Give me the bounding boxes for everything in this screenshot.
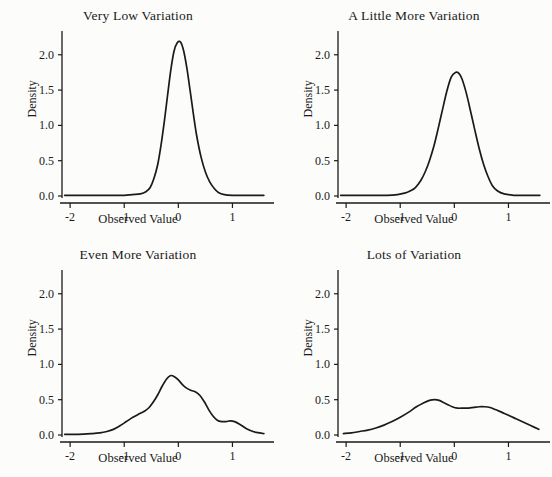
svg-text:1.0: 1.0	[39, 357, 54, 371]
x-axis-label: Observed Value	[276, 451, 552, 466]
svg-text:1.5: 1.5	[315, 83, 330, 97]
panel-very-low-variation: Very Low Variation Density 0.00.51.01.52…	[0, 0, 276, 238]
svg-text:0.5: 0.5	[39, 154, 54, 168]
plot-area-2: 0.00.51.01.52.0-2-101	[0, 239, 276, 477]
svg-text:0.5: 0.5	[315, 393, 330, 407]
svg-text:0.0: 0.0	[39, 189, 54, 203]
panel-lots-of-variation: Lots of Variation Density 0.00.51.01.52.…	[276, 239, 552, 477]
panel-a-little-more-variation: A Little More Variation Density 0.00.51.…	[276, 0, 552, 238]
svg-text:1.5: 1.5	[39, 322, 54, 336]
figure-root: Very Low Variation Density 0.00.51.01.52…	[0, 0, 552, 477]
panel-even-more-variation: Even More Variation Density 0.00.51.01.5…	[0, 239, 276, 477]
x-axis-label: Observed Value	[276, 212, 552, 227]
svg-text:2.0: 2.0	[315, 287, 330, 301]
svg-text:1.5: 1.5	[315, 322, 330, 336]
svg-text:0.0: 0.0	[315, 428, 330, 442]
svg-text:1.0: 1.0	[315, 357, 330, 371]
svg-text:1.0: 1.0	[315, 118, 330, 132]
plot-area-3: 0.00.51.01.52.0-2-101	[276, 239, 552, 477]
svg-text:2.0: 2.0	[315, 48, 330, 62]
plot-area-0: 0.00.51.01.52.0-2-101	[0, 0, 276, 238]
svg-text:2.0: 2.0	[39, 287, 54, 301]
x-axis-label: Observed Value	[0, 212, 276, 227]
svg-text:0.0: 0.0	[39, 428, 54, 442]
svg-text:1.0: 1.0	[39, 118, 54, 132]
svg-text:0.0: 0.0	[315, 189, 330, 203]
svg-text:0.5: 0.5	[39, 393, 54, 407]
svg-text:2.0: 2.0	[39, 48, 54, 62]
x-axis-label: Observed Value	[0, 451, 276, 466]
svg-text:1.5: 1.5	[39, 83, 54, 97]
plot-area-1: 0.00.51.01.52.0-2-101	[276, 0, 552, 238]
svg-text:0.5: 0.5	[315, 154, 330, 168]
